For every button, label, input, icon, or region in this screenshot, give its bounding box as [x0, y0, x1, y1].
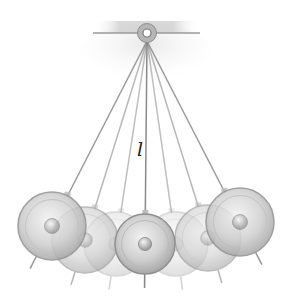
pivot-hole: [143, 29, 151, 37]
pivot-icon: [138, 24, 157, 43]
length-label: l: [137, 138, 143, 160]
bob-stem: [181, 276, 183, 290]
bob-stem: [71, 272, 75, 285]
bob-stem: [109, 276, 111, 290]
bob-stem: [30, 256, 36, 268]
pendulum-bob: [115, 210, 175, 288]
bob-stem: [256, 252, 262, 264]
bob-stem: [218, 270, 222, 283]
bob-knob: [45, 219, 60, 234]
bob-knob: [233, 215, 248, 230]
pendulum-diagram: [0, 0, 288, 306]
bob-knob: [138, 237, 151, 250]
pendulum-figure: l: [0, 0, 288, 306]
